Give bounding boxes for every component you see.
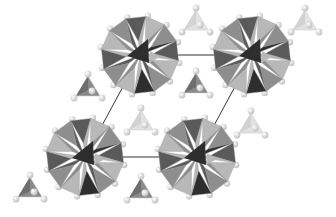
atom-icon [85,71,92,78]
atom-icon [31,189,38,196]
atom-icon [262,132,269,139]
cluster-top-right [210,13,295,98]
tetra-3 [124,105,159,136]
atom-icon [197,85,204,92]
atom-icon [197,22,204,29]
atom-icon [252,125,259,132]
atom-icon [193,68,200,75]
cluster-top-left [98,13,183,98]
atom-icon [138,105,145,112]
tetra-7 [179,5,214,36]
atom-icon [41,196,48,203]
atom-icon [179,29,186,36]
atom-icon [193,5,200,12]
atom-icon [207,92,214,99]
tetra-5 [13,172,48,203]
atom-icon [288,29,295,36]
atom-icon [306,22,313,29]
atom-icon [248,108,255,115]
tetra-4 [234,108,269,139]
structure-canvas [0,0,336,217]
atom-icon [124,197,131,204]
atom-icon [316,29,323,36]
atom-icon [71,95,78,102]
atom-icon [27,172,34,179]
atom-icon [138,173,145,180]
atom-icon [99,95,106,102]
atom-icon [234,132,241,139]
atom-icon [302,5,309,12]
cluster-bottom-left [43,115,128,200]
tetra-2 [179,68,214,99]
tetra-6 [124,173,159,204]
atom-icon [89,88,96,95]
atom-icon [142,122,149,129]
atom-icon [13,196,20,203]
tetra-8 [288,5,323,36]
atom-icon [179,92,186,99]
atom-icon [124,129,131,136]
atom-icon [207,29,214,36]
clusters-layer [43,13,295,200]
atom-icon [152,197,159,204]
atom-icon [152,129,159,136]
atom-icon [142,190,149,197]
tetra-1 [71,71,106,102]
cluster-bottom-right [155,115,240,200]
crystal-structure-diagram [0,0,336,217]
